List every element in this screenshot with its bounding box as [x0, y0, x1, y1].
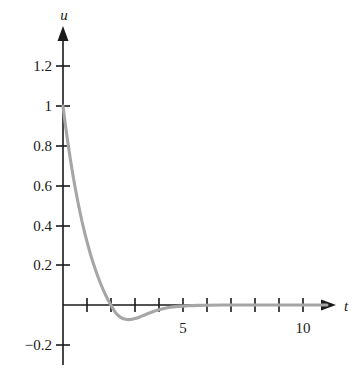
chart-figure: 1.2 1 0.8 0.6 0.4 0.2 −0.2 5 10 u t	[0, 0, 360, 383]
y-tick-label-1: 1	[45, 98, 53, 114]
y-tick-label-0.8: 0.8	[33, 138, 52, 154]
y-tick-label-0.6: 0.6	[33, 178, 52, 194]
y-tick-label-1.2: 1.2	[33, 58, 52, 74]
x-axis-tick-labels: 5 10	[179, 320, 310, 336]
y-tick-label-0.2: 0.2	[33, 257, 52, 273]
y-tick-label--0.2: −0.2	[25, 337, 52, 353]
x-tick-label-10: 10	[296, 320, 311, 336]
x-tick-label-5: 5	[179, 320, 187, 336]
y-axis-arrow-icon	[58, 26, 69, 41]
y-axis-tick-labels: 1.2 1 0.8 0.6 0.4 0.2 −0.2	[25, 58, 53, 353]
y-tick-label-0.4: 0.4	[33, 218, 52, 234]
plot-area: 1.2 1 0.8 0.6 0.4 0.2 −0.2 5 10 u t	[0, 0, 360, 383]
y-axis-label: u	[60, 7, 68, 23]
x-axis-label: t	[344, 298, 349, 314]
data-curve-u	[63, 106, 327, 320]
